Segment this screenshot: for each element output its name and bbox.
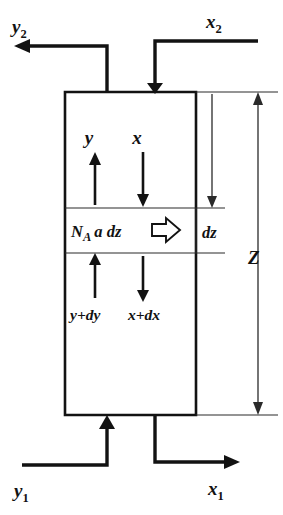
up-arrow-icon bbox=[99, 415, 115, 429]
label-x-upper: x bbox=[131, 127, 142, 148]
flux-direction-group bbox=[152, 218, 180, 242]
up-arrow-icon bbox=[89, 253, 101, 265]
label-y-upper: y bbox=[83, 127, 94, 148]
label-x-plus-dx: x+dx bbox=[127, 306, 160, 323]
right-arrow-icon bbox=[224, 455, 240, 469]
label-y1: y1 bbox=[12, 480, 29, 505]
stream-y2-gas-outlet bbox=[14, 39, 107, 92]
x2-stream-path bbox=[155, 41, 258, 84]
up-arrow-icon bbox=[253, 92, 263, 105]
left-arrow-icon bbox=[14, 39, 30, 53]
label-dz: dz bbox=[202, 223, 217, 242]
label-x1: x1 bbox=[207, 478, 224, 503]
internal-arrows-lower bbox=[89, 253, 149, 302]
down-arrow-icon bbox=[137, 290, 149, 302]
hollow-right-arrow-icon bbox=[152, 218, 180, 242]
label-x2: x2 bbox=[205, 11, 222, 36]
label-flux-term: NAa dz bbox=[70, 222, 122, 244]
label-column-height: Z bbox=[247, 247, 260, 268]
y2-stream-path bbox=[30, 46, 107, 92]
dz-dimension bbox=[196, 92, 232, 208]
column-element-figure: y2 x2 y1 x1 y x y+dy x+dx NAa dz dz Z bbox=[0, 0, 283, 515]
down-arrow-icon bbox=[137, 194, 149, 207]
internal-arrows-upper bbox=[89, 152, 149, 207]
stream-y1-gas-inlet bbox=[22, 415, 115, 465]
stream-x1-liquid-outlet bbox=[155, 415, 240, 469]
stream-x2-liquid-inlet bbox=[147, 41, 258, 94]
x1-stream-path bbox=[155, 415, 225, 462]
diagram-canvas: y2 x2 y1 x1 y x y+dy x+dx NAa dz dz Z bbox=[0, 0, 283, 515]
down-arrow-icon bbox=[253, 402, 263, 415]
label-y-plus-dy: y+dy bbox=[68, 306, 100, 323]
up-arrow-icon bbox=[89, 152, 101, 165]
label-y2: y2 bbox=[10, 16, 27, 41]
down-arrow-icon bbox=[207, 196, 217, 208]
y1-stream-path bbox=[22, 428, 107, 465]
